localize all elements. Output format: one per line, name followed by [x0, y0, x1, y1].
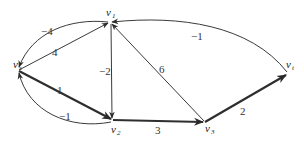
edge-label-v1-vs: −4 — [41, 25, 53, 37]
edge-label-vs-v2: 1 — [57, 84, 63, 96]
edge-label-vs-v1: 4 — [52, 46, 58, 58]
node-vs: v s — [13, 58, 22, 72]
edge-label-v3-v1: 6 — [159, 63, 165, 75]
node-vt: v t — [286, 58, 295, 72]
svg-text:1: 1 — [112, 12, 116, 20]
svg-text:2: 2 — [117, 129, 121, 137]
svg-text:t: t — [292, 64, 295, 72]
edge-label-v2-vs: −1 — [59, 110, 71, 122]
flow-network-diagram: −4 4 1 −1 −2 6 3 2 −1 v s v 1 v 2 v 3 v … — [0, 0, 304, 143]
svg-text:v: v — [13, 58, 18, 70]
edge-label-v2-v3: 3 — [155, 124, 161, 136]
svg-text:3: 3 — [210, 128, 215, 136]
node-v3: v 3 — [205, 122, 215, 136]
svg-text:s: s — [19, 64, 22, 72]
edge-v2-v3 — [113, 120, 203, 122]
edge-label-vt-v1: −1 — [191, 30, 203, 42]
edge-vt-v1 — [112, 20, 287, 72]
edge-label-v3-vt: 2 — [240, 105, 246, 117]
edge-v1-v2 — [111, 24, 112, 118]
edge-label-v1-v2: −2 — [99, 65, 111, 77]
edge-v1-vs — [19, 21, 108, 67]
svg-text:v: v — [111, 123, 116, 135]
svg-text:v: v — [106, 6, 111, 18]
svg-text:v: v — [286, 58, 291, 70]
svg-text:v: v — [205, 122, 210, 134]
node-v1: v 1 — [106, 6, 116, 20]
edge-vs-v1 — [19, 23, 108, 70]
edge-v3-vt — [205, 75, 286, 122]
node-v2: v 2 — [111, 123, 121, 137]
